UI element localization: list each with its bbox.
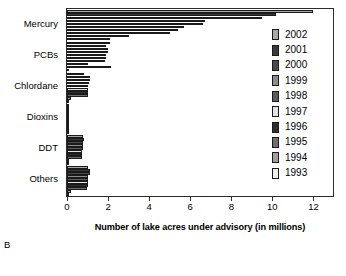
panel-label: B bbox=[4, 240, 10, 250]
bar-others-1993 bbox=[67, 193, 69, 196]
legend-item-1993[interactable]: 1993 bbox=[272, 166, 328, 181]
legend-label-2001: 2001 bbox=[285, 45, 307, 55]
legend-swatch-1997 bbox=[272, 106, 279, 117]
bar-pcbs-1993 bbox=[67, 69, 69, 72]
category-axis-labels: MercuryPCBsChlordaneDioxinsDDTOthers bbox=[0, 8, 62, 197]
category-label-mercury: Mercury bbox=[24, 19, 58, 29]
x-tick-label-6: 6 bbox=[188, 202, 193, 212]
category-label-chlordane: Chlordane bbox=[14, 81, 58, 91]
legend-swatch-1993 bbox=[272, 168, 279, 179]
legend-item-1994[interactable]: 1994 bbox=[272, 150, 328, 165]
category-label-others: Others bbox=[29, 174, 58, 184]
legend-label-1993: 1993 bbox=[285, 168, 307, 178]
x-axis-title: Number of lake acres under advisory (in … bbox=[66, 222, 334, 232]
x-tick-label-10: 10 bbox=[267, 202, 278, 212]
x-tick-label-12: 12 bbox=[308, 202, 319, 212]
x-tick-label-2: 2 bbox=[105, 202, 110, 212]
legend-swatch-1995 bbox=[272, 137, 279, 148]
bar-ddt-1995 bbox=[67, 156, 82, 159]
x-tick-label-0: 0 bbox=[64, 202, 69, 212]
x-tick-label-8: 8 bbox=[229, 202, 234, 212]
legend-label-1996: 1996 bbox=[285, 122, 307, 132]
legend-item-2000[interactable]: 2000 bbox=[272, 58, 328, 73]
x-tick-label-4: 4 bbox=[146, 202, 151, 212]
legend-item-2001[interactable]: 2001 bbox=[272, 42, 328, 57]
category-label-dioxins: Dioxins bbox=[27, 112, 58, 122]
legend-item-2002[interactable]: 2002 bbox=[272, 27, 328, 42]
bar-pcbs-1994 bbox=[67, 66, 111, 69]
legend-swatch-1994 bbox=[272, 152, 279, 163]
bar-mercury-1993 bbox=[67, 38, 110, 41]
category-label-ddt: DDT bbox=[38, 143, 58, 153]
legend-swatch-2002 bbox=[272, 29, 279, 40]
legend-item-1998[interactable]: 1998 bbox=[272, 89, 328, 104]
legend-label-1999: 1999 bbox=[285, 76, 307, 86]
legend-swatch-1999 bbox=[272, 75, 279, 86]
bar-chart-figure: MercuryPCBsChlordaneDioxinsDDTOthers 024… bbox=[0, 0, 346, 276]
legend-label-1995: 1995 bbox=[285, 137, 307, 147]
legend-swatch-2001 bbox=[272, 45, 279, 56]
legend-swatch-1996 bbox=[272, 122, 279, 133]
bar-ddt-1993 bbox=[67, 162, 69, 165]
bar-dioxins-1993 bbox=[67, 131, 69, 134]
legend-item-1999[interactable]: 1999 bbox=[272, 73, 328, 88]
legend-label-1998: 1998 bbox=[285, 91, 307, 101]
legend-label-2002: 2002 bbox=[285, 30, 307, 40]
legend-swatch-1998 bbox=[272, 91, 279, 102]
category-label-pcbs: PCBs bbox=[34, 50, 58, 60]
legend-item-1996[interactable]: 1996 bbox=[272, 119, 328, 134]
legend-label-1994: 1994 bbox=[285, 153, 307, 163]
legend-item-1995[interactable]: 1995 bbox=[272, 135, 328, 150]
x-axis-ticks: 024681012 bbox=[66, 197, 334, 219]
legend-label-1997: 1997 bbox=[285, 107, 307, 117]
legend-item-1997[interactable]: 1997 bbox=[272, 104, 328, 119]
legend-label-2000: 2000 bbox=[285, 60, 307, 70]
bar-chlordane-1993 bbox=[67, 100, 69, 103]
legend-swatch-2000 bbox=[272, 60, 279, 71]
legend: 2002200120001999199819971996199519941993 bbox=[272, 27, 328, 181]
